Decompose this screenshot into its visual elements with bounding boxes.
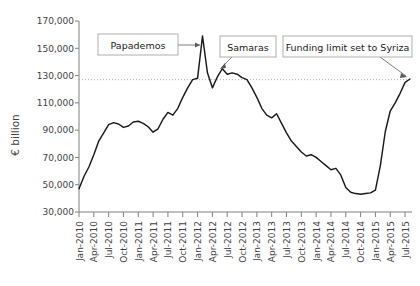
x-tick-label: Apr-2015: [386, 221, 396, 262]
y-tick-label: 70,000: [43, 153, 75, 163]
y-tick-label: 150,000: [37, 44, 74, 54]
y-tick-label: 50,000: [43, 180, 75, 190]
x-tick-label: Jan-2011: [134, 221, 144, 262]
x-tick-label: Apr-2010: [89, 221, 99, 262]
x-tick-label: Oct-2014: [356, 221, 366, 263]
funding-limit-leader: [380, 57, 406, 76]
y-axis-tick-marks: [75, 21, 79, 212]
samaras-callout-label: Samaras: [227, 42, 269, 53]
x-tick-label: Jul-2010: [104, 221, 114, 259]
x-tick-label: Jan-2012: [193, 221, 203, 262]
x-axis-tick-labels: Jan-2010Apr-2010Jul-2010Oct-2010Jan-2011…: [75, 221, 411, 263]
x-tick-label: Jan-2010: [75, 221, 85, 262]
annotation-funding-limit: Funding limit set to Syriza: [283, 36, 412, 78]
y-tick-label: 30,000: [43, 207, 75, 217]
line-chart: € billion 30,00050,00070,00090,000110,00…: [0, 0, 420, 286]
x-tick-label: Jan-2013: [252, 221, 262, 262]
papademos-callout-label: Papademos: [111, 40, 166, 51]
y-axis-tick-labels: 30,00050,00070,00090,000110,000130,00015…: [37, 16, 74, 217]
x-tick-label: Jan-2014: [312, 221, 322, 262]
papademos-arrowhead: [195, 43, 200, 48]
x-tick-label: Apr-2013: [267, 221, 277, 262]
x-tick-label: Oct-2010: [119, 221, 129, 263]
x-axis-tick-marks: [79, 212, 405, 217]
x-tick-label: Apr-2014: [326, 221, 336, 262]
funding-limit-callout-label: Funding limit set to Syriza: [286, 42, 410, 53]
y-tick-label: 90,000: [43, 125, 75, 135]
y-tick-label: 170,000: [37, 16, 74, 26]
annotation-papademos: Papademos: [98, 34, 200, 55]
chart-container: € billion 30,00050,00070,00090,000110,00…: [0, 0, 420, 286]
samaras-arrowhead: [220, 63, 226, 69]
y-tick-label: 110,000: [37, 98, 74, 108]
series-line-eurosystem-funding: [79, 36, 410, 194]
x-tick-label: Oct-2011: [178, 221, 188, 263]
x-tick-label: Jul-2013: [282, 221, 292, 259]
x-tick-label: Oct-2012: [238, 221, 248, 263]
x-tick-label: Jan-2015: [371, 221, 381, 262]
x-tick-label: Jul-2012: [223, 221, 233, 259]
y-tick-label: 130,000: [37, 71, 74, 81]
x-tick-label: Jul-2015: [401, 221, 411, 259]
x-tick-label: Apr-2012: [208, 221, 218, 262]
x-tick-label: Oct-2013: [297, 221, 307, 263]
x-tick-label: Jul-2011: [163, 221, 173, 259]
x-tick-label: Apr-2011: [149, 221, 159, 262]
x-tick-label: Jul-2014: [341, 221, 351, 259]
annotation-samaras: Samaras: [220, 36, 276, 69]
y-axis-title-group: € billion: [9, 114, 21, 155]
y-axis-title: € billion: [9, 114, 21, 155]
